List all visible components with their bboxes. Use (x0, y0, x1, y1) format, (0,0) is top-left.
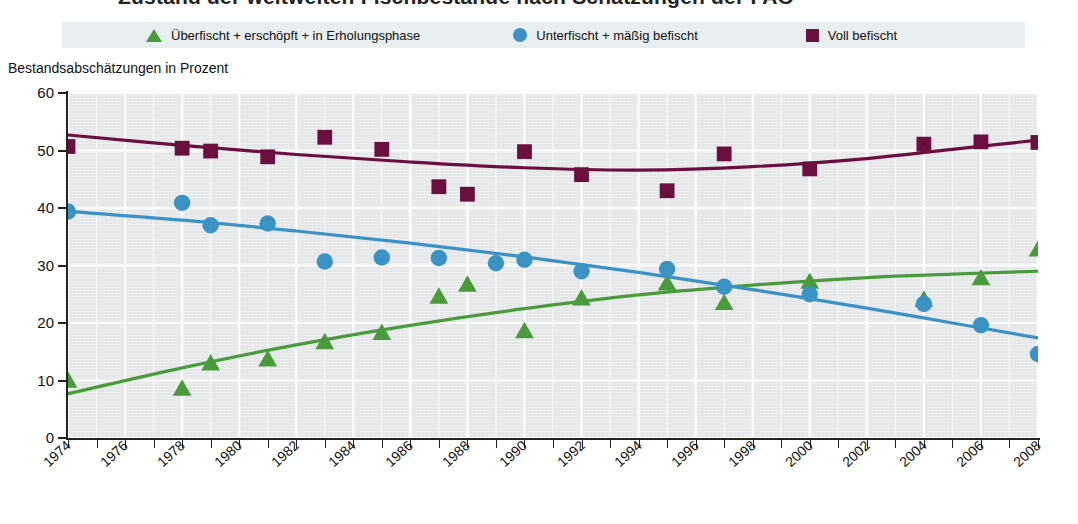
x-tick-mark (895, 440, 896, 448)
data-point-square[interactable] (175, 141, 190, 156)
y-axis-title: Bestandsabschätzungen in Prozent (8, 60, 228, 76)
x-tick-mark (667, 440, 668, 448)
x-tick-mark (325, 440, 326, 448)
data-point-circle[interactable] (716, 279, 732, 295)
circle-marker-icon (513, 28, 527, 42)
data-point-circle[interactable] (516, 252, 532, 268)
data-point-square[interactable] (802, 162, 817, 177)
data-point-square[interactable] (203, 144, 218, 159)
data-point-square[interactable] (460, 187, 475, 202)
chart-title-strip: Zustand der weltweiten Fischbestände nac… (0, 0, 1078, 13)
data-point-circle[interactable] (317, 253, 333, 269)
x-tick-label: 1992 (554, 437, 588, 470)
data-point-circle[interactable] (659, 261, 675, 277)
legend-item-voll-befischt[interactable]: Voll befischt (806, 28, 897, 43)
data-point-square[interactable] (260, 149, 275, 164)
x-tick-mark (610, 440, 611, 448)
y-tick-mark (58, 92, 66, 94)
page-title: Zustand der weltweiten Fischbestände nac… (118, 0, 794, 9)
x-tick-mark (496, 440, 497, 448)
legend-item-ueberfischt[interactable]: Überfischt + erschöpft + in Erholungspha… (146, 28, 420, 43)
x-tick-mark (781, 440, 782, 448)
y-tick-label: 10 (8, 372, 54, 389)
legend-label-voll-befischt: Voll befischt (828, 28, 897, 43)
data-point-square[interactable] (974, 134, 989, 149)
data-point-circle[interactable] (374, 249, 390, 265)
data-point-triangle[interactable] (515, 322, 534, 338)
data-point-triangle[interactable] (715, 294, 734, 310)
x-tick-mark (211, 440, 212, 448)
data-point-circle[interactable] (202, 217, 218, 233)
y-tick-label: 50 (8, 142, 54, 159)
x-tick-label: 1994 (611, 437, 645, 470)
data-point-triangle[interactable] (572, 289, 591, 305)
x-tick-mark (1009, 440, 1010, 448)
y-tick-label: 60 (8, 84, 54, 101)
data-point-circle[interactable] (68, 203, 76, 219)
legend-item-unterfischt[interactable]: Unterfischt + mäßig befischt (513, 28, 697, 43)
x-tick-label: 1998 (725, 437, 759, 470)
plot-area (68, 93, 1038, 438)
x-tick-mark (97, 440, 98, 448)
y-tick-mark (58, 322, 66, 324)
x-tick-mark (838, 440, 839, 448)
data-point-square[interactable] (317, 130, 332, 145)
x-tick-label: 1996 (668, 437, 702, 470)
data-point-circle[interactable] (174, 195, 190, 211)
legend-label-ueberfischt: Überfischt + erschöpft + in Erholungspha… (171, 28, 420, 43)
x-tick-mark (439, 440, 440, 448)
square-marker-icon (806, 29, 819, 42)
triangle-marker-icon (146, 29, 162, 42)
data-point-circle[interactable] (260, 215, 276, 231)
data-point-circle[interactable] (431, 250, 447, 266)
y-tick-mark (58, 265, 66, 267)
data-point-circle[interactable] (802, 286, 818, 302)
y-tick-label: 20 (8, 314, 54, 331)
trend-line-triangle (68, 271, 1038, 393)
legend-label-unterfischt: Unterfischt + mäßig befischt (536, 28, 697, 43)
x-tick-mark (724, 440, 725, 448)
data-point-triangle[interactable] (429, 287, 448, 303)
y-tick-mark (58, 380, 66, 382)
x-tick-mark (952, 440, 953, 448)
data-point-circle[interactable] (488, 255, 504, 271)
data-point-triangle[interactable] (1029, 240, 1038, 256)
y-tick-label: 30 (8, 257, 54, 274)
data-point-triangle[interactable] (68, 371, 77, 387)
y-tick-label: 0 (8, 429, 54, 446)
data-point-square[interactable] (374, 142, 389, 157)
data-point-square[interactable] (916, 137, 931, 152)
data-point-square[interactable] (68, 139, 75, 154)
data-point-square[interactable] (431, 179, 446, 194)
x-tick-mark (154, 440, 155, 448)
data-point-square[interactable] (574, 167, 589, 182)
data-point-circle[interactable] (973, 317, 989, 333)
data-point-square[interactable] (660, 183, 675, 198)
y-axis-line (66, 91, 68, 440)
data-point-square[interactable] (517, 144, 532, 159)
x-tick-mark (382, 440, 383, 448)
data-point-circle[interactable] (573, 263, 589, 279)
y-tick-label: 40 (8, 199, 54, 216)
data-point-triangle[interactable] (173, 379, 192, 395)
data-point-circle[interactable] (916, 296, 932, 312)
chart-legend: Überfischt + erschöpft + in Erholungspha… (62, 22, 1025, 48)
x-tick-mark (268, 440, 269, 448)
y-tick-mark (58, 207, 66, 209)
y-tick-mark (58, 150, 66, 152)
data-point-square[interactable] (1031, 135, 1038, 150)
data-point-square[interactable] (717, 147, 732, 162)
data-layer (68, 93, 1038, 438)
x-tick-mark (553, 440, 554, 448)
data-point-circle[interactable] (1030, 346, 1038, 362)
data-point-triangle[interactable] (458, 275, 477, 291)
